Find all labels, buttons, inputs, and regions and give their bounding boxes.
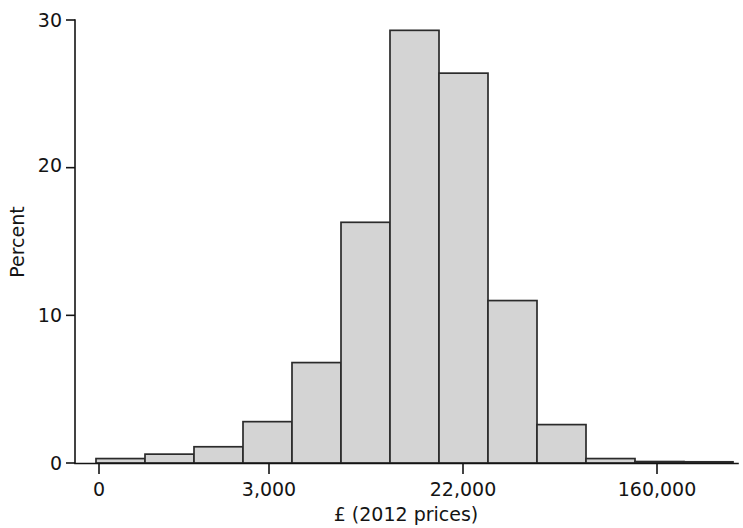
x-tick-label-22000: 22,000 [430,478,496,500]
y-tick-label-20: 20 [38,154,62,176]
y-axis-title: Percent [6,206,28,278]
chart-canvas: 0 10 20 30 0 3,000 22,000 160,000 Percen… [0,0,743,528]
x-tick-label-0: 0 [93,478,105,500]
histogram-bar [439,73,488,463]
histogram-bar [96,459,145,463]
y-tick-label-10: 10 [38,304,62,326]
histogram-bar [243,422,292,463]
histogram-figure: 0 10 20 30 0 3,000 22,000 160,000 Percen… [0,0,743,528]
histogram-bar [390,30,439,463]
x-axis-title: £ (2012 prices) [334,503,479,525]
y-tick-label-0: 0 [50,452,62,474]
histogram-bar [488,301,537,463]
x-tick-label-160000: 160,000 [618,478,697,500]
histogram-bars [96,30,733,463]
x-axis-ticks [99,464,657,474]
y-tick-label-30: 30 [38,9,62,31]
y-axis-ticks [66,20,75,463]
histogram-bar [586,459,635,463]
histogram-bar [537,425,586,463]
histogram-bar [341,222,390,463]
histogram-bar [145,454,194,463]
histogram-bar [292,363,341,463]
x-tick-label-3000: 3,000 [242,478,296,500]
histogram-bar [194,447,243,463]
